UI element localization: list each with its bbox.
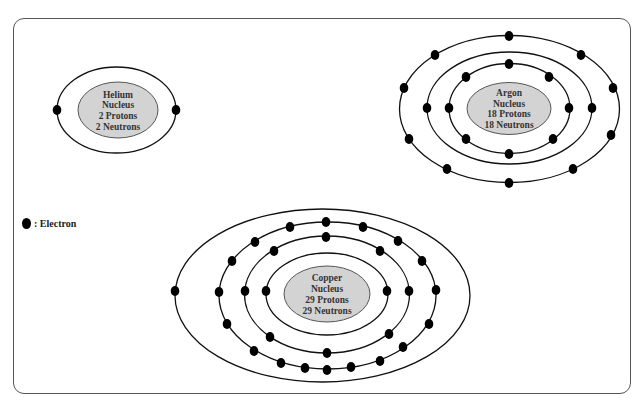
electron-icon bbox=[223, 319, 232, 329]
electron-icon bbox=[53, 105, 62, 115]
electron-icon bbox=[171, 286, 180, 296]
argon-nucleus-label: Argon bbox=[496, 88, 523, 98]
electron-icon bbox=[383, 286, 392, 296]
copper-nucleus-label: Nucleus bbox=[311, 284, 344, 294]
electron-icon bbox=[431, 50, 440, 60]
argon-atom: ArgonNucleus18 Protons18 Neutrons bbox=[400, 31, 620, 188]
electron-icon bbox=[322, 217, 331, 227]
electron-icon bbox=[505, 149, 514, 159]
electron-icon bbox=[445, 103, 454, 113]
electron-icon bbox=[462, 72, 471, 82]
electron-icon bbox=[385, 329, 394, 339]
electron-icon bbox=[607, 130, 616, 140]
atoms-layer: HeliumNucleus2 Protons2 NeutronsArgonNuc… bbox=[0, 0, 642, 410]
helium-nucleus-label: 2 Protons bbox=[99, 111, 138, 121]
helium-atom: HeliumNucleus2 Protons2 Neutrons bbox=[53, 67, 181, 153]
electron-icon bbox=[270, 246, 279, 256]
electron-icon bbox=[266, 332, 275, 342]
electron-icon bbox=[505, 31, 514, 41]
electron-icon bbox=[376, 246, 385, 256]
electron-icon bbox=[323, 365, 332, 375]
helium-nucleus-label: Nucleus bbox=[102, 100, 135, 110]
electron-icon bbox=[405, 134, 414, 144]
copper-nucleus-label: 29 Protons bbox=[305, 295, 349, 305]
electron-icon bbox=[172, 105, 181, 115]
electron-icon bbox=[323, 348, 332, 358]
argon-nucleus-label: 18 Protons bbox=[487, 109, 531, 119]
electron-icon bbox=[251, 237, 260, 247]
electron-icon bbox=[286, 222, 295, 232]
electron-icon bbox=[322, 232, 331, 242]
electron-icon bbox=[425, 319, 434, 329]
electron-icon bbox=[228, 256, 237, 266]
electron-icon bbox=[545, 72, 554, 82]
legend: : Electron bbox=[22, 218, 76, 229]
copper-atom: CopperNucleus29 Protons29 Neutrons bbox=[171, 209, 470, 382]
argon-nucleus-label: Nucleus bbox=[493, 99, 526, 109]
electron-icon bbox=[577, 50, 586, 60]
electron-icon bbox=[462, 134, 471, 144]
electron-icon bbox=[443, 164, 452, 174]
helium-nucleus-label: Helium bbox=[103, 90, 133, 100]
electron-icon bbox=[569, 164, 578, 174]
electron-icon bbox=[262, 286, 271, 296]
electron-icon bbox=[609, 83, 618, 93]
electron-icon bbox=[250, 346, 259, 356]
electron-icon bbox=[565, 103, 574, 113]
electron-icon bbox=[394, 236, 403, 246]
copper-nucleus-label: Copper bbox=[312, 273, 343, 283]
diagram-canvas: HeliumNucleus2 Protons2 NeutronsArgonNuc… bbox=[0, 0, 642, 410]
electron-icon bbox=[505, 178, 514, 188]
electron-icon bbox=[588, 103, 597, 113]
electron-icon bbox=[432, 285, 441, 295]
electron-icon bbox=[399, 342, 408, 352]
helium-nucleus-label: 2 Neutrons bbox=[96, 122, 141, 132]
electron-icon bbox=[418, 256, 427, 266]
electron-legend-icon bbox=[22, 218, 31, 229]
argon-nucleus-label: 18 Neutrons bbox=[484, 120, 533, 130]
electron-icon bbox=[549, 134, 558, 144]
legend-label: : Electron bbox=[34, 218, 76, 229]
electron-icon bbox=[400, 83, 409, 93]
electron-icon bbox=[301, 363, 310, 373]
electron-icon bbox=[376, 356, 385, 366]
electron-icon bbox=[347, 362, 356, 372]
electron-icon bbox=[505, 59, 514, 69]
electron-icon bbox=[359, 222, 368, 232]
electron-icon bbox=[423, 103, 432, 113]
electron-icon bbox=[277, 358, 286, 368]
copper-nucleus-label: 29 Neutrons bbox=[302, 306, 351, 316]
electron-icon bbox=[241, 286, 250, 296]
electron-icon bbox=[215, 287, 224, 297]
electron-icon bbox=[405, 286, 414, 296]
